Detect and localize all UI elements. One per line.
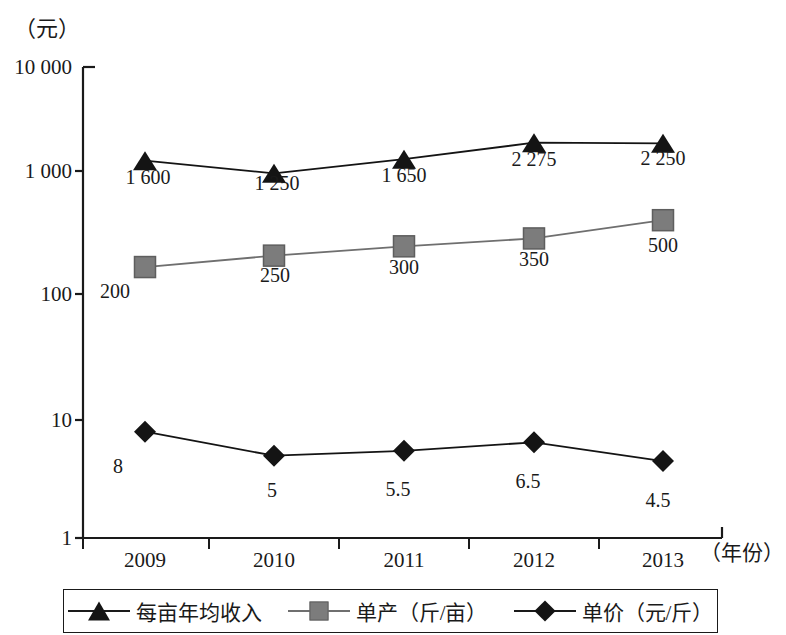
square-marker-2013	[653, 210, 674, 231]
data-label-s2-2013: 4.5	[646, 489, 671, 512]
square-marker-2011	[394, 236, 415, 257]
data-label-s0-2010: 1 250	[255, 172, 300, 195]
data-label-s1-2009: 200	[100, 280, 130, 303]
chart-container: （元） （年份） 10 000 1 000 100 10 1 2009 2010…	[0, 0, 786, 635]
diamond-marker-2009	[134, 421, 156, 443]
plot-area	[0, 0, 786, 635]
square-marker-2009	[135, 257, 156, 278]
diamond-marker-2013	[652, 450, 674, 472]
square-marker-icon	[288, 600, 350, 622]
legend-label-yield: 单产（斤/亩）	[356, 596, 488, 626]
data-label-s0-2009: 1 600	[126, 166, 171, 189]
data-label-s0-2011: 1 650	[382, 164, 427, 187]
legend-item-yield[interactable]: 单产（斤/亩）	[288, 596, 488, 626]
data-label-s1-2013: 500	[648, 234, 678, 257]
diamond-marker-icon	[514, 600, 576, 622]
data-label-s1-2012: 350	[519, 248, 549, 271]
legend-item-price[interactable]: 单价（元/斤）	[514, 596, 714, 626]
chart-legend: 每亩年均收入 单产（斤/亩） 单价（元/斤）	[63, 589, 718, 633]
data-label-s1-2010: 250	[260, 264, 290, 287]
diamond-marker-2010	[263, 445, 285, 467]
diamond-marker-2012	[523, 431, 545, 453]
legend-label-income: 每亩年均收入	[136, 596, 262, 626]
data-label-s2-2009: 8	[113, 455, 123, 478]
data-label-s0-2013: 2 250	[641, 147, 686, 170]
triangle-marker-icon	[68, 600, 130, 622]
data-label-s2-2011: 5.5	[386, 478, 411, 501]
legend-label-price: 单价（元/斤）	[582, 596, 714, 626]
square-marker-2010	[264, 245, 285, 266]
diamond-marker-2011	[393, 440, 415, 462]
data-label-s2-2010: 5	[267, 479, 277, 502]
square-marker-2012	[524, 228, 545, 249]
legend-item-income[interactable]: 每亩年均收入	[68, 596, 262, 626]
data-label-s1-2011: 300	[389, 256, 419, 279]
data-label-s2-2012: 6.5	[516, 470, 541, 493]
data-label-s0-2012: 2 275	[512, 148, 557, 171]
